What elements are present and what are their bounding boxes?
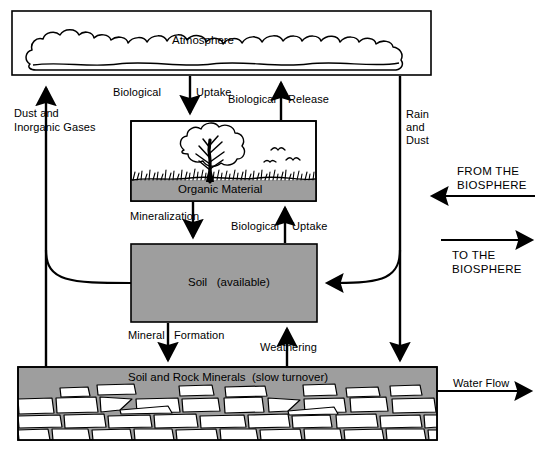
flow-label-biological-release-right: Release [288,93,329,106]
flow-label-dust-inorganic-gases-line1: Dust and [14,107,59,120]
flow-label-to-the-biosphere-line2: BIOSPHERE [452,262,522,276]
flow-label-water-flow: Water Flow [453,377,509,390]
nutrient-cycle-diagram: Atmosphere Organic Material Soil (availa… [0,0,539,462]
flow-label-from-the-biosphere-line2: BIOSPHERE [457,178,527,192]
soil-available-label: Soil (available) [188,276,270,288]
flow-label-rain-and-dust-line2: and [406,121,425,134]
soil-rock-minerals-label: Soil and Rock Minerals (slow turnover) [128,371,328,383]
flow-label-to-the-biosphere-line1: TO THE [452,248,496,262]
organic-material-label: Organic Material [178,183,262,195]
flow-label-rain-and-dust-line1: Rain [406,108,429,121]
flow-label-mineralization: Mineralization [130,210,199,223]
flow-label-from-the-biosphere-line1: FROM THE [457,164,519,178]
flow-label-mineral-formation-right: Formation [174,329,224,342]
arrow-rain-and-dust [327,76,400,360]
flow-label-weathering: Weathering [260,341,317,354]
flow-label-biological-uptake-soil-left: Biological [231,220,279,233]
flow-label-rain-and-dust-line3: Dust [406,134,429,147]
flow-label-dust-inorganic-gases-line2: Inorganic Gases [14,121,96,134]
flow-label-biological-uptake-soil-right: Uptake [292,220,327,233]
flow-label-biological-release-left: Biological [228,93,276,106]
atmosphere-label: Atmosphere [172,34,234,46]
flow-label-biological-uptake-atmosphere-left: Biological [113,86,161,99]
flow-label-biological-uptake-atmosphere-right: Uptake [196,86,231,99]
flow-label-mineral-formation-left: Mineral [128,329,165,342]
